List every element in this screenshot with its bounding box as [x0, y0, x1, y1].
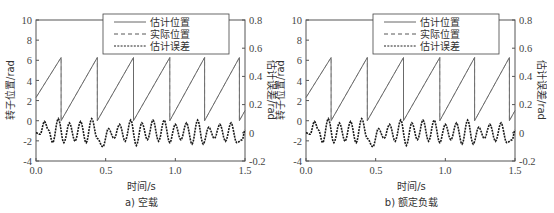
y-axis-left-title: 转子位置/rad: [4, 60, 16, 120]
y-axis-left-title: 转子位置/rad: [274, 60, 286, 120]
y2-tick: 0.2: [519, 99, 532, 110]
chart-panel-b: 10 8 6 4 2 0 -2 -4 0.8 0.6 0.4 0.2 0 -0.…: [270, 0, 547, 213]
series-line: [36, 119, 245, 147]
panel-caption: b) 额定负载: [273, 194, 550, 209]
y2-tick: 0.8: [249, 15, 262, 26]
x-tick: 1.5: [508, 165, 521, 176]
x-axis-ticks: 0.0 0.5 1.0 1.5: [29, 165, 251, 176]
series-line: [36, 58, 245, 121]
y-axis-left-ticks: 10 8 6 4 2 0 -2 -4: [292, 15, 303, 167]
x-tick: 0.5: [99, 165, 112, 176]
y-axis-right-ticks: 0.8 0.6 0.4 0.2 0 -0.2: [519, 15, 536, 167]
y2-tick: 0.4: [249, 71, 263, 82]
y2-tick: 0.2: [249, 99, 262, 110]
series-line: [306, 58, 515, 121]
legend-item-estimated-position: 估计位置: [150, 16, 190, 28]
y2-tick: 0.8: [519, 15, 532, 26]
x-tick: 1.0: [438, 165, 451, 176]
y2-tick: 0: [519, 128, 524, 139]
series-line: [306, 58, 515, 121]
x-tick: 0.0: [299, 165, 312, 176]
y-tick: 10: [292, 15, 303, 26]
y2-tick: 0.6: [519, 43, 532, 54]
x-axis-title: 时间/s: [273, 178, 550, 193]
y2-tick: 0.4: [519, 71, 533, 82]
legend-item-actual-position: 实际位置: [150, 28, 190, 40]
y2-tick: 0: [249, 128, 254, 139]
y-axis-left-ticks: 10 8 6 4 2 0 -2 -4: [22, 15, 33, 167]
y-tick: 6: [27, 55, 32, 66]
legend-item-estimated-error: 估计误差: [150, 40, 190, 52]
y-tick: -2: [293, 136, 302, 147]
y2-tick: 0.6: [249, 43, 262, 54]
legend-item-estimated-position: 估计位置: [420, 16, 460, 28]
y-tick: 4: [27, 76, 33, 87]
y-tick: 4: [297, 76, 303, 87]
legend-item-actual-position: 实际位置: [420, 28, 460, 40]
y-axis-right-title: 估计误差/rad: [536, 60, 547, 120]
x-axis-ticks: 0.0 0.5 1.0 1.5: [299, 165, 521, 176]
y-tick: 8: [27, 35, 32, 46]
legend-item-estimated-error: 估计误差: [420, 40, 460, 52]
y-tick: -2: [23, 136, 32, 147]
x-tick: 1.0: [168, 165, 181, 176]
series-line: [36, 58, 245, 121]
chart-panel-a: 10 8 6 4 2 0 -2 -4 0.8 0.6 0.4 0.2 0 -0.…: [0, 0, 277, 213]
x-tick: 1.5: [238, 165, 251, 176]
legend: 估计位置 实际位置 估计误差: [373, 14, 499, 54]
panel-caption: a) 空载: [3, 194, 280, 209]
y-tick: 6: [297, 55, 302, 66]
series-line: [306, 119, 515, 147]
x-tick: 0.0: [29, 165, 42, 176]
legend: 估计位置 实际位置 估计误差: [103, 14, 229, 54]
x-axis-title: 时间/s: [3, 178, 280, 193]
y-axis-right-ticks: 0.8 0.6 0.4 0.2 0 -0.2: [249, 15, 266, 167]
y-tick: 0: [297, 116, 302, 127]
y-tick: 0: [27, 116, 32, 127]
y-tick: 8: [297, 35, 302, 46]
y-tick: 10: [22, 15, 33, 26]
y-tick: 2: [27, 96, 32, 107]
x-tick: 0.5: [369, 165, 382, 176]
y-tick: 2: [297, 96, 302, 107]
